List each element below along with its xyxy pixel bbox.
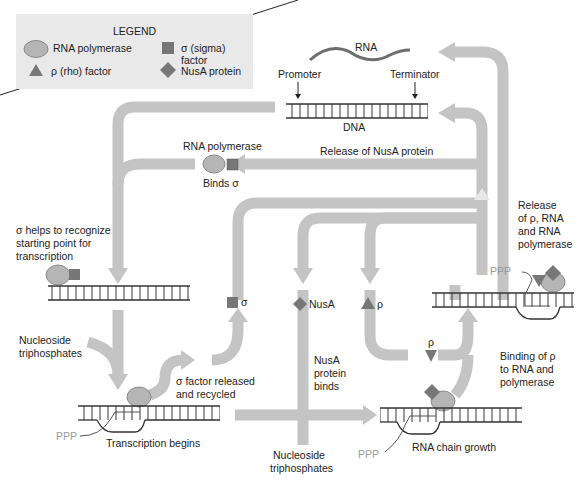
nucleoside-left-line2: triphosphates — [19, 347, 82, 360]
sigma-helps-line1: σ helps to recognize — [16, 224, 111, 237]
rna-polymerase-shape — [203, 155, 225, 173]
sigma-symbol-label: σ — [241, 296, 247, 309]
terminator-label: Terminator — [390, 68, 440, 81]
sigma-factor-shape — [227, 159, 238, 170]
release-nusa-label: Release of NusA protein — [320, 145, 433, 158]
arrow-dna-to-sigma-complex — [118, 107, 275, 270]
sigma-helps-line3: transcription — [16, 250, 73, 263]
legend-label-nusa-protein: NusA protein — [181, 65, 241, 77]
nusa-binds-line1: NusA — [314, 354, 340, 367]
sigma-helps-line2: starting point for — [16, 237, 91, 250]
rho-symbol-label: ρ — [377, 298, 383, 311]
sigma-released-line2: and recycled — [176, 388, 236, 401]
rho-symbol-lower-label: ρ — [428, 336, 434, 349]
rho-down-shape — [425, 350, 437, 362]
nucleoside-bottom-line1: Nucleoside — [273, 449, 325, 462]
promoter-label: Promoter — [278, 68, 321, 81]
binding-rho-line3: polymerase — [500, 376, 554, 389]
nusa-label: NusA — [309, 298, 335, 311]
release-rho-line2: of ρ, RNA — [518, 212, 564, 225]
rna-chain-growth-label: RNA chain growth — [412, 441, 496, 454]
nusa-protein-legend-icon — [160, 62, 176, 78]
ppp-label-3: PPP — [490, 265, 511, 278]
nucleoside-bottom-line2: triphosphates — [270, 462, 333, 475]
sigma-recycled-shape — [227, 297, 238, 308]
arrow-to-dna — [455, 113, 482, 275]
legend-title: LEGEND — [16, 25, 253, 37]
dna-top — [286, 104, 428, 118]
nusa-binds-line2: protein — [314, 367, 346, 380]
terminator-arrow — [412, 82, 418, 99]
binding-rho-line2: to RNA and — [500, 363, 554, 376]
nucleoside-left-line1: Nucleoside — [19, 334, 71, 347]
release-rho-line3: and RNA — [518, 225, 561, 238]
legend-label-rna-polymerase: RNA polymerase — [53, 42, 132, 54]
dna-label: DNA — [343, 121, 365, 134]
binds-sigma-label: Binds σ — [203, 177, 239, 190]
arrow-to-rho — [370, 218, 482, 270]
rna-polymerase-legend-icon — [22, 39, 50, 59]
ppp-label-1: PPP — [56, 430, 77, 443]
legend-label-sigma-factor: σ (sigma) factor — [181, 42, 253, 66]
ppp-label-2: PPP — [358, 448, 379, 461]
rna-polymerase-label: RNA polymerase — [183, 140, 262, 153]
legend: LEGEND RNA polymerase σ (sigma) factor ρ… — [16, 14, 253, 89]
rho-factor-legend-icon — [28, 63, 44, 77]
transcription-begins-label: Transcription begins — [106, 437, 200, 450]
binding-rho-line1: Binding of ρ — [500, 350, 556, 363]
sigma-factor-legend-icon — [161, 41, 175, 55]
legend-label-rho-factor: ρ (rho) factor — [51, 65, 111, 77]
promoter-arrow — [295, 82, 301, 99]
release-rho-line4: polymerase — [518, 238, 572, 251]
sigma-released-line1: σ factor released — [176, 375, 255, 388]
rna-label: RNA — [355, 41, 377, 54]
nusa-binds-line3: binds — [314, 380, 339, 393]
arrow-to-nusa — [303, 218, 482, 270]
release-rho-line1: Release — [518, 199, 557, 212]
